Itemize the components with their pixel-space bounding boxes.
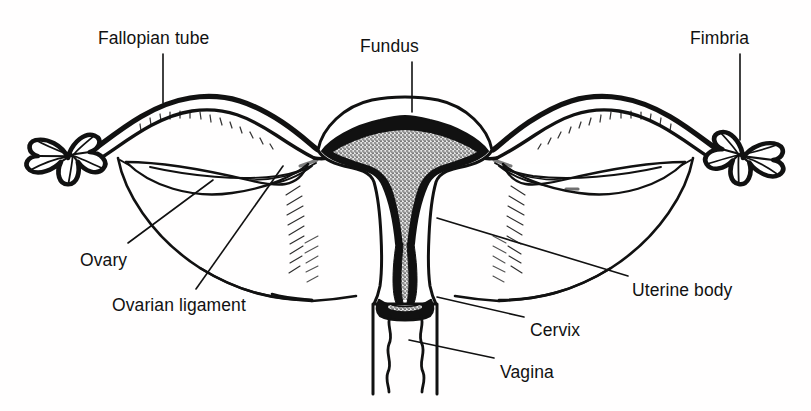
label-fallopian-tube: Fallopian tube xyxy=(98,30,209,48)
fimbriae-right xyxy=(704,131,786,187)
fallopian-tube-right xyxy=(481,96,715,158)
label-vagina: Vagina xyxy=(500,364,554,382)
label-ovary: Ovary xyxy=(80,252,127,270)
label-ovarian-ligament: Ovarian ligament xyxy=(112,297,246,315)
anatomy-illustration xyxy=(0,0,811,411)
fallopian-tube-left xyxy=(96,96,330,158)
leader-uterine-body xyxy=(437,218,628,276)
diagram-canvas: Fallopian tube Fundus Fimbria Ovary Ovar… xyxy=(0,0,811,411)
fimbriae-left xyxy=(25,131,107,187)
uterus-body xyxy=(318,97,492,321)
label-fundus: Fundus xyxy=(360,38,419,56)
label-cervix: Cervix xyxy=(530,322,580,340)
label-fimbria: Fimbria xyxy=(690,30,749,48)
label-uterine-body: Uterine body xyxy=(632,282,732,300)
